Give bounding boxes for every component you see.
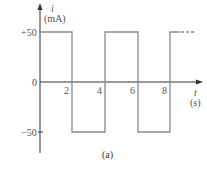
y-axis-unit: (mA): [44, 13, 66, 25]
figure-caption: (a): [102, 149, 113, 161]
y-tick-label: 0: [32, 77, 37, 88]
x-tick-label: 2: [64, 85, 69, 96]
x-axis-arrow-icon: [196, 80, 203, 85]
x-tick-label: 8: [162, 85, 167, 96]
square-wave-chart: i (mA) +50 0 −50 2 4 6 8 t (s) (a): [0, 0, 207, 171]
x-tick-label: 4: [97, 85, 102, 96]
x-axis-unit: (s): [190, 97, 201, 109]
y-tick-label: −50: [21, 127, 37, 138]
y-axis-arrow-icon: [38, 3, 43, 10]
y-tick-label: +50: [21, 27, 37, 38]
x-tick-label: 6: [130, 85, 135, 96]
